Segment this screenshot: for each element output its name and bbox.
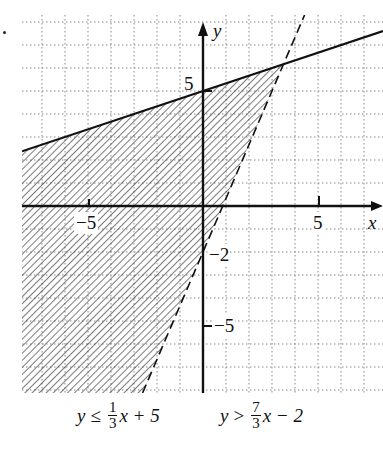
x-axis-arrow-icon bbox=[371, 201, 383, 211]
eq2-fraction: 7 3 bbox=[251, 400, 261, 431]
eq1-lhs: y bbox=[77, 405, 85, 427]
eq2-lhs: y bbox=[220, 405, 228, 427]
eq1-rest: x + 5 bbox=[119, 405, 159, 427]
eq2-numerator: 7 bbox=[251, 400, 261, 416]
y-axis-arrow-icon bbox=[198, 22, 208, 36]
eq1-denominator: 3 bbox=[109, 416, 117, 431]
tick-label-x-pos5: 5 bbox=[312, 212, 324, 234]
graph-plot bbox=[0, 0, 383, 400]
tick-label-y-pos5: 5 bbox=[184, 73, 194, 95]
eq1-op: ≤ bbox=[90, 405, 100, 427]
y-axis-label: y bbox=[213, 20, 221, 42]
eq2-rest: x − 2 bbox=[263, 405, 303, 427]
tick-label-x-neg5: −5 bbox=[74, 212, 98, 234]
shaded-region bbox=[22, 64, 284, 393]
inequality-1: y ≤ 1 3 x + 5 bbox=[77, 400, 160, 431]
inequality-2: y > 7 3 x − 2 bbox=[220, 400, 303, 431]
eq2-op: > bbox=[233, 405, 244, 427]
tick-label-y-neg2: −2 bbox=[208, 244, 230, 266]
tick-label-y-neg5: −5 bbox=[213, 315, 235, 337]
x-axis-label: x bbox=[368, 212, 376, 234]
eq2-denominator: 3 bbox=[252, 416, 260, 431]
eq1-fraction: 1 3 bbox=[108, 400, 118, 431]
eq1-numerator: 1 bbox=[108, 400, 118, 416]
